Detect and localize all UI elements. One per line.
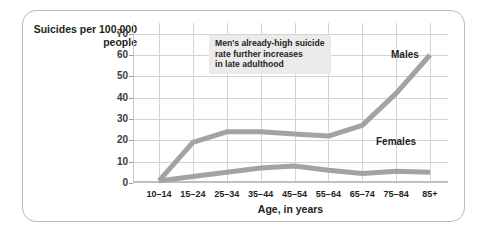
y-tick-mark	[129, 183, 133, 184]
x-axis-title: Age, in years	[133, 203, 448, 215]
series-label-males: Males	[391, 49, 419, 60]
y-tick-mark	[129, 55, 133, 56]
annotation-callout: Men's already-high suicide rate further …	[209, 35, 331, 74]
y-tick-label: 70	[102, 28, 128, 39]
y-tick-label: 30	[102, 113, 128, 124]
y-tick-mark	[129, 98, 133, 99]
y-tick-mark	[129, 119, 133, 120]
y-tick-label: 50	[102, 70, 128, 81]
y-tick-label: 10	[102, 156, 128, 167]
series-label-females: Females	[376, 136, 416, 147]
y-tick-label: 0	[102, 177, 128, 188]
y-tick-label: 20	[102, 134, 128, 145]
line-females	[159, 166, 430, 181]
y-tick-mark	[129, 76, 133, 77]
chart-card: Suicides per 100,000 people Men's alread…	[22, 10, 465, 222]
y-tick-mark	[129, 34, 133, 35]
y-tick-label: 40	[102, 92, 128, 103]
x-tick-label: 85+	[410, 189, 450, 199]
y-tick-mark	[129, 162, 133, 163]
plot-area: Men's already-high suicide rate further …	[133, 23, 448, 183]
line-males	[159, 55, 430, 181]
y-tick-mark	[129, 140, 133, 141]
y-tick-label: 60	[102, 49, 128, 60]
